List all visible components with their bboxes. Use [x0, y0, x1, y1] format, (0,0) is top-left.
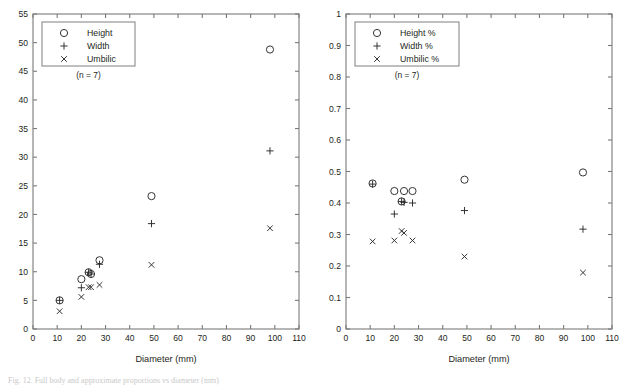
cross-marker	[267, 225, 273, 231]
plot-area-relative: 010203040506070809010011000.10.20.30.40.…	[313, 0, 625, 387]
y-tick-label: 0.1	[329, 293, 341, 303]
series-umbilic	[370, 228, 586, 275]
plus-marker	[391, 210, 398, 217]
legend-label: Height %	[400, 28, 436, 38]
x-tick-label: 10	[52, 333, 62, 343]
circle-marker	[391, 187, 398, 194]
y-tick-label: 30	[18, 152, 28, 162]
x-tick-label: 0	[344, 333, 349, 343]
x-tick-label: 100	[268, 333, 283, 343]
series-height	[56, 46, 274, 304]
figure-caption: Fig. 12. Full body and approximate propo…	[8, 376, 219, 385]
plus-marker	[266, 147, 273, 154]
y-tick-label: 0	[336, 324, 341, 334]
figure-caption-strip: Fig. 12. Full body and approximate propo…	[0, 376, 625, 387]
circle-marker	[579, 169, 586, 176]
circle-marker	[266, 46, 273, 53]
sample-size-note: (n = 7)	[76, 70, 101, 80]
plus-marker	[579, 226, 586, 233]
y-tick-label: 25	[18, 181, 28, 191]
y-tick-label: 0.9	[329, 41, 341, 51]
cross-marker	[97, 282, 103, 288]
legend-label: Height	[87, 28, 113, 38]
plus-marker	[148, 220, 155, 227]
y-tick-label: 0.6	[329, 135, 341, 145]
circle-marker	[78, 276, 85, 283]
circle-marker	[461, 176, 468, 183]
y-tick-label: 0.2	[329, 261, 341, 271]
x-tick-label: 80	[222, 333, 232, 343]
y-tick-label: 0	[23, 324, 28, 334]
cross-marker	[392, 238, 398, 244]
circle-marker	[409, 187, 416, 194]
plus-marker	[96, 261, 103, 268]
x-tick-label: 100	[581, 333, 596, 343]
y-tick-label: 1	[336, 9, 341, 19]
cross-marker	[580, 270, 586, 276]
scatter-plot-absolute: 0102030405060708090100110051015202530354…	[0, 0, 312, 387]
x-tick-label: 50	[149, 333, 159, 343]
plot-area-absolute: 0102030405060708090100110051015202530354…	[0, 0, 312, 387]
series-width	[56, 147, 274, 304]
y-tick-label: 0.5	[329, 167, 341, 177]
circle-marker	[148, 193, 155, 200]
x-tick-label: 50	[462, 333, 472, 343]
y-tick-label: 0.4	[329, 198, 341, 208]
x-tick-label: 20	[77, 333, 87, 343]
cross-marker	[462, 254, 468, 260]
plus-marker	[409, 199, 416, 206]
x-tick-label: 0	[31, 333, 36, 343]
x-tick-label: 30	[101, 333, 111, 343]
y-tick-label: 50	[18, 38, 28, 48]
x-tick-label: 60	[173, 333, 183, 343]
x-tick-label: 90	[559, 333, 569, 343]
y-tick-label: 10	[18, 267, 28, 277]
scatter-plot-relative: 010203040506070809010011000.10.20.30.40.…	[313, 0, 625, 387]
panel-relative: 010203040506070809010011000.10.20.30.40.…	[313, 0, 625, 387]
x-tick-label: 10	[365, 333, 375, 343]
x-tick-label: 60	[486, 333, 496, 343]
x-tick-label: 30	[414, 333, 424, 343]
x-tick-label: 110	[605, 333, 619, 343]
cross-marker	[370, 239, 376, 245]
y-tick-label: 35	[18, 124, 28, 134]
circle-marker	[400, 187, 407, 194]
cross-marker	[57, 308, 63, 314]
legend-label: Umbilic	[87, 54, 116, 64]
x-axis-title: Diameter (mm)	[135, 354, 196, 364]
x-tick-label: 40	[438, 333, 448, 343]
y-tick-label: 15	[18, 238, 28, 248]
legend-label: Width	[87, 41, 110, 51]
panel-absolute: 0102030405060708090100110051015202530354…	[0, 0, 312, 387]
y-tick-label: 0.7	[329, 104, 341, 114]
y-tick-label: 0.3	[329, 230, 341, 240]
legend-label: Umbilic %	[400, 54, 439, 64]
y-tick-label: 20	[18, 210, 28, 220]
cross-marker	[149, 262, 155, 268]
y-tick-label: 40	[18, 95, 28, 105]
x-tick-label: 80	[535, 333, 545, 343]
x-tick-label: 70	[197, 333, 207, 343]
x-tick-label: 70	[510, 333, 520, 343]
cross-marker	[79, 294, 85, 300]
y-tick-label: 5	[23, 296, 28, 306]
y-tick-label: 0.8	[329, 72, 341, 82]
cross-marker	[401, 230, 407, 236]
sample-size-note: (n = 7)	[395, 70, 420, 80]
y-tick-label: 45	[18, 66, 28, 76]
series-umbilic	[57, 225, 273, 314]
y-tick-label: 55	[18, 9, 28, 19]
x-tick-label: 20	[390, 333, 400, 343]
x-axis-title: Diameter (mm)	[448, 354, 509, 364]
plus-marker	[461, 207, 468, 214]
x-tick-label: 110	[292, 333, 306, 343]
x-tick-label: 40	[125, 333, 135, 343]
cross-marker	[410, 238, 416, 244]
legend-label: Width %	[400, 41, 433, 51]
x-tick-label: 90	[246, 333, 256, 343]
plus-marker	[78, 284, 85, 291]
